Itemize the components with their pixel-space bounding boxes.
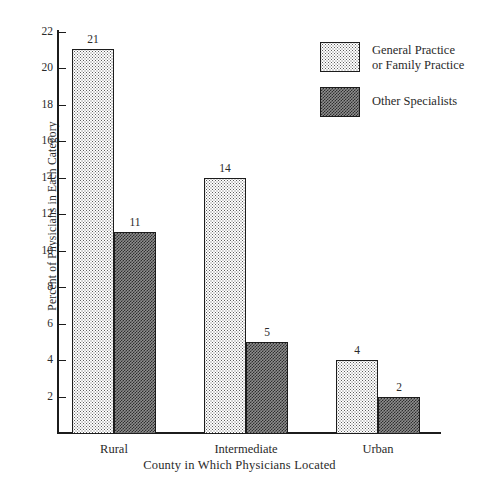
y-tick-18 bbox=[59, 105, 66, 106]
y-tick-12 bbox=[59, 214, 66, 215]
y-tick-4 bbox=[59, 360, 66, 361]
y-tick-label-6: 6 bbox=[22, 318, 53, 330]
y-tick-16 bbox=[59, 141, 66, 142]
bar-value-urban-general-practice: 4 bbox=[336, 345, 378, 357]
bar-value-rural-other-specialists: 11 bbox=[114, 217, 156, 229]
bar-urban-other-specialists bbox=[378, 397, 420, 434]
y-tick-22 bbox=[59, 32, 66, 33]
y-tick-label-14: 14 bbox=[22, 172, 53, 184]
y-tick-label-12: 12 bbox=[22, 208, 53, 220]
legend-label-other-specialists: Other Specialists bbox=[372, 87, 457, 109]
y-tick-label-8: 8 bbox=[22, 281, 53, 293]
y-tick-label-20: 20 bbox=[22, 62, 53, 74]
bar-rural-other-specialists bbox=[114, 232, 156, 434]
legend-label-general-practice: General Practice or Family Practice bbox=[372, 42, 464, 73]
legend-item-general-practice: General Practice or Family Practice bbox=[320, 42, 464, 73]
x-axis-title: County in Which Physicians Located bbox=[0, 458, 479, 473]
bar-value-intermediate-other-specialists: 5 bbox=[246, 327, 288, 339]
y-tick-10 bbox=[59, 251, 66, 252]
bar-value-rural-general-practice: 21 bbox=[72, 34, 114, 46]
legend-swatch-general-practice bbox=[320, 42, 360, 72]
legend: General Practice or Family Practice Othe… bbox=[320, 42, 464, 131]
bar-intermediate-general-practice bbox=[204, 178, 246, 434]
y-tick-label-4: 4 bbox=[22, 354, 53, 366]
y-tick-label-10: 10 bbox=[22, 245, 53, 257]
y-tick-14 bbox=[59, 178, 66, 179]
y-tick-label-16: 16 bbox=[22, 135, 53, 147]
y-axis-line bbox=[57, 30, 59, 434]
bar-intermediate-other-specialists bbox=[246, 342, 288, 434]
legend-item-other-specialists: Other Specialists bbox=[320, 87, 464, 117]
x-category-label-intermediate: Intermediate bbox=[204, 442, 288, 457]
y-tick-label-22: 22 bbox=[22, 26, 53, 38]
bar-rural-general-practice bbox=[72, 49, 114, 434]
legend-swatch-other-specialists bbox=[320, 87, 360, 117]
y-tick-2 bbox=[59, 397, 66, 398]
y-tick-label-18: 18 bbox=[22, 99, 53, 111]
y-tick-8 bbox=[59, 287, 66, 288]
x-category-label-rural: Rural bbox=[72, 442, 156, 457]
bar-urban-general-practice bbox=[336, 360, 378, 434]
y-tick-label-2: 2 bbox=[22, 391, 53, 403]
bar-value-intermediate-general-practice: 14 bbox=[204, 163, 246, 175]
y-tick-6 bbox=[59, 324, 66, 325]
bar-chart: Percent of Physicians in Each Category 2… bbox=[0, 0, 479, 495]
x-category-label-urban: Urban bbox=[336, 442, 420, 457]
bar-value-urban-other-specialists: 2 bbox=[378, 382, 420, 394]
y-tick-20 bbox=[59, 68, 66, 69]
